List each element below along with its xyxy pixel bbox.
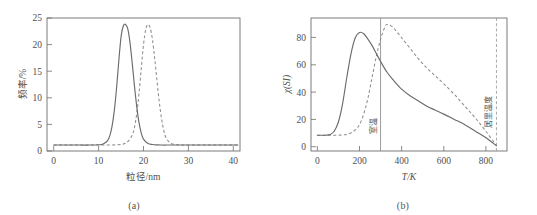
panel-a-x-tick-0: 0: [51, 156, 56, 166]
figure-container: 0 5 10 15 20 25 0 10 20 30 40: [0, 0, 537, 215]
panel-b-caption: (b): [269, 200, 537, 211]
panel-b-x-tick-3: 600: [437, 156, 452, 166]
panel-b-x-ticks: [317, 146, 486, 151]
panel-a-x-tick-4: 40: [229, 156, 239, 166]
panel-b-y-axis-title: χ(SI): [282, 75, 293, 94]
panel-a-y-tick-0: 0: [37, 146, 42, 156]
panel-a-y-axis-title: 频率/%: [17, 69, 28, 100]
panel-a-x-tick-3: 30: [184, 156, 194, 166]
room-temperature-label: 室温: [368, 118, 378, 134]
panel-a-x-axis-title: 粒径/nm: [126, 171, 161, 182]
panel-b-plot-frame: [311, 18, 507, 151]
panel-a-curve-dashed: [54, 24, 238, 145]
chart-panel-b: 0 20 40 60 80 0 200 400 600 800 T: [269, 0, 537, 215]
panel-a-x-tick-labels: 0 10 20 30 40: [51, 156, 238, 166]
panel-b-y-tick-3: 60: [297, 60, 307, 70]
panel-b-y-tick-2: 40: [297, 88, 307, 98]
panel-a-y-tick-2: 10: [33, 93, 43, 103]
panel-b-x-tick-4: 800: [479, 156, 494, 166]
panel-b-y-tick-0: 0: [301, 142, 306, 152]
panel-b-plot: 0 20 40 60 80 0 200 400 600 800 T: [269, 0, 537, 215]
panel-a-y-ticks: [47, 18, 52, 151]
curie-temperature-label: 居里温度: [483, 96, 493, 128]
panel-b-curve-solid: [317, 32, 496, 145]
panel-a-y-tick-3: 15: [33, 67, 43, 77]
panel-a-x-tick-2: 20: [139, 156, 149, 166]
panel-a-curve-solid: [54, 24, 238, 145]
panel-b-y-tick-1: 20: [297, 115, 307, 125]
panel-b-x-tick-labels: 0 200 400 600 800: [315, 156, 493, 166]
panel-b-x-tick-1: 200: [352, 156, 367, 166]
panel-b-y-ticks: [311, 37, 316, 146]
panel-b-x-axis-title: T/K: [402, 172, 417, 182]
panel-b-x-tick-2: 400: [394, 156, 409, 166]
panel-b-x-tick-0: 0: [315, 156, 320, 166]
panel-a-y-tick-4: 20: [33, 40, 43, 50]
panel-a-plot-frame: [47, 18, 240, 151]
panel-a-x-ticks: [54, 146, 234, 151]
panel-a-x-tick-1: 10: [94, 156, 104, 166]
panel-a-caption: (a): [0, 200, 268, 211]
panel-a-y-tick-5: 25: [33, 13, 43, 23]
panel-a-plot: 0 5 10 15 20 25 0 10 20 30 40: [0, 0, 268, 215]
panel-a-y-tick-1: 5: [37, 120, 42, 130]
panel-b-y-tick-4: 80: [297, 33, 307, 43]
chart-panel-a: 0 5 10 15 20 25 0 10 20 30 40: [0, 0, 268, 215]
panel-b-y-tick-labels: 0 20 40 60 80: [297, 33, 307, 152]
panel-a-y-tick-labels: 0 5 10 15 20 25: [33, 13, 43, 156]
